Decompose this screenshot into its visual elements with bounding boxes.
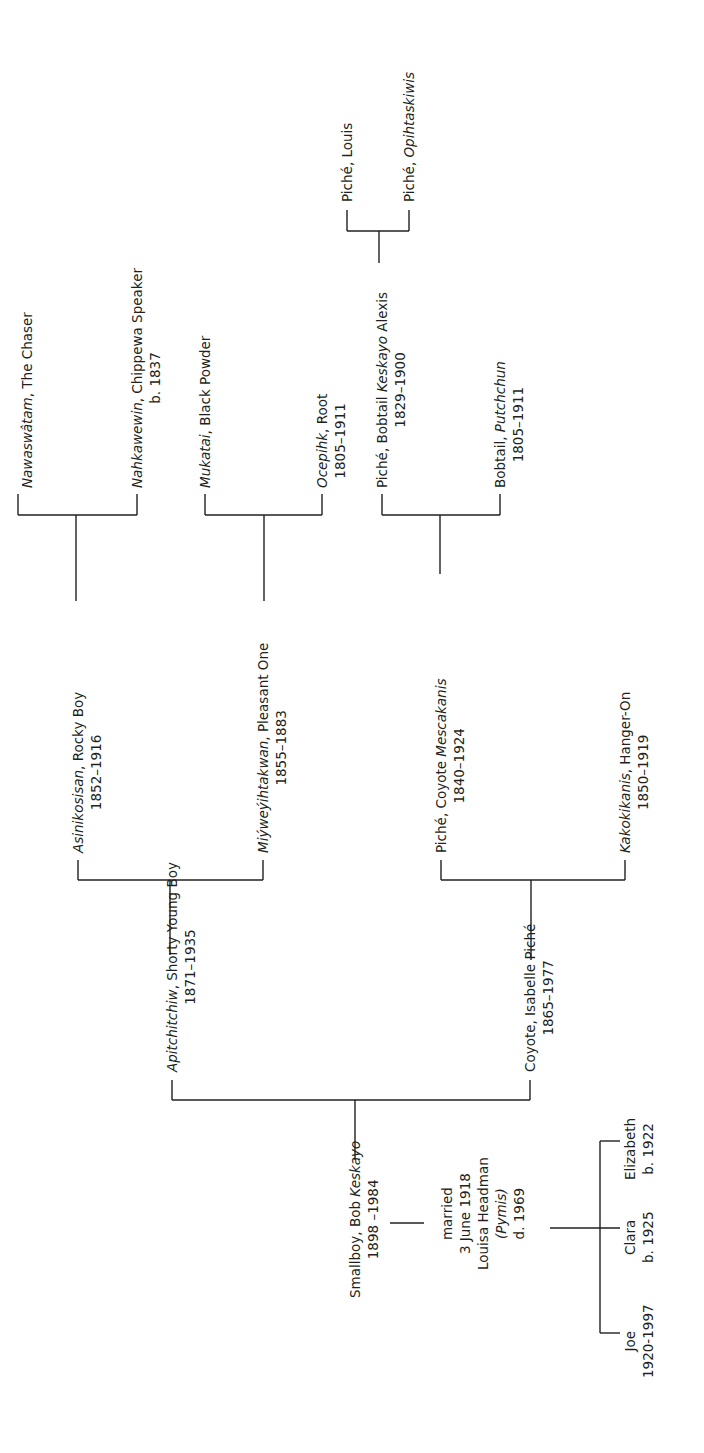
person-dates: 1805–1911 <box>509 361 527 488</box>
person-name-plain: Piché, Bobtail <box>374 392 390 488</box>
person-name-italic: Nahkawewin <box>129 402 145 488</box>
person-name: Joe <box>621 1304 639 1378</box>
person-name-italic: Kakokikanis <box>617 773 633 853</box>
person-joe: Joe 1920-1997 <box>621 1304 657 1378</box>
person-name-italic: Keskayo <box>347 1141 363 1197</box>
person-smallboy-bob: Smallboy, Bob Keskayo 1898 –1984 <box>346 1141 382 1298</box>
marriage-info: married 3 June 1918 Louisa Headman (Pymi… <box>438 1157 528 1270</box>
person-piche-coyote: Piché, Coyote Mescakanis 1840–1924 <box>432 679 468 853</box>
person-name: Coyote, Isabelle Piché <box>521 924 539 1072</box>
person-kakokikanis: Kakokikanis, Hanger-On 1850–1919 <box>616 692 652 853</box>
person-name-plain: Piché, Coyote <box>433 757 449 853</box>
person-nahkawewin: Nahkawewin, Chippewa Speaker b. 1837 <box>128 268 164 488</box>
spouse-alt-name: (Pymis) <box>492 1157 510 1270</box>
person-name-italic: Ocepihk <box>314 433 330 488</box>
person-nawaswatam: Nawaswâtam, The Chaser <box>18 312 36 488</box>
person-dates: 1865–1977 <box>539 924 557 1072</box>
person-name-italic: Opihtaskiwis <box>401 72 417 158</box>
person-dates: 1852–1916 <box>87 692 105 853</box>
person-name: Piché, Louis <box>338 123 356 202</box>
person-name-rest: , Root <box>314 394 330 433</box>
person-name-rest: , Rocky Boy <box>70 692 86 770</box>
person-dates: 1920-1997 <box>639 1304 657 1378</box>
person-name-plain: Piché, <box>401 158 417 202</box>
person-name-italic: Nawaswâtam <box>19 397 35 488</box>
person-name-rest: Alexis <box>374 292 390 336</box>
person-name-italic: Apitchitchiw <box>164 989 180 1072</box>
person-apitchitchiw: Apitchitchiw, Shorty Young Boy 1871–1935 <box>163 862 199 1072</box>
person-dates: 1898 –1984 <box>364 1141 382 1298</box>
person-name-italic: Miýweýihtakwan <box>255 741 271 853</box>
person-piche-bobtail: Piché, Bobtail Keskayo Alexis 1829–1900 <box>373 292 409 488</box>
person-name: Clara <box>621 1211 639 1263</box>
person-coyote-isabelle: Coyote, Isabelle Piché 1865–1977 <box>521 924 557 1072</box>
person-name-rest: , Black Powder <box>197 336 213 435</box>
person-dates: b. 1837 <box>146 268 164 488</box>
person-dates: 1871–1935 <box>181 862 199 1072</box>
person-dates: 1805–1911 <box>331 394 349 488</box>
person-name-italic: Putchchun <box>492 361 508 432</box>
person-dates: 1829–1900 <box>391 292 409 488</box>
person-asinikosisan: Asinikosisan, Rocky Boy 1852–1916 <box>69 692 105 853</box>
person-miyweyihtakwan: Miýweýihtakwan, Pleasant One 1855–1883 <box>254 643 290 853</box>
person-piche-opihtaskiwis: Piché, Opihtaskiwis <box>400 72 418 202</box>
person-name-italic: Asinikosisan <box>70 770 86 853</box>
person-ocepihk: Ocepihk, Root 1805–1911 <box>313 394 349 488</box>
person-name-plain: Bobtail, <box>492 432 508 488</box>
person-name-italic: Mescakanis <box>433 679 449 757</box>
person-piche-louis: Piché, Louis <box>338 123 356 202</box>
person-name-italic: Mukatai <box>197 434 213 488</box>
person-name-rest: , Shorty Young Boy <box>164 862 180 989</box>
person-dates: 1850–1919 <box>634 692 652 853</box>
person-name-rest: , Hanger-On <box>617 692 633 774</box>
person-mukatai: Mukatai, Black Powder <box>196 336 214 488</box>
marriage-label: married <box>438 1157 456 1270</box>
person-name-plain: Smallboy, Bob <box>347 1197 363 1298</box>
person-clara: Clara b. 1925 <box>621 1211 657 1263</box>
person-name-rest: , The Chaser <box>19 312 35 397</box>
person-dates: b. 1922 <box>639 1118 657 1180</box>
marriage-date: 3 June 1918 <box>456 1157 474 1270</box>
person-name-italic: Keskayo <box>374 336 390 392</box>
person-dates: b. 1925 <box>639 1211 657 1263</box>
person-bobtail-putchchun: Bobtail, Putchchun 1805–1911 <box>491 361 527 488</box>
person-name-rest: , Pleasant One <box>255 643 271 741</box>
person-dates: 1855–1883 <box>272 643 290 853</box>
person-elizabeth: Elizabeth b. 1922 <box>621 1118 657 1180</box>
spouse-name: Louisa Headman <box>474 1157 492 1270</box>
person-name: Elizabeth <box>621 1118 639 1180</box>
person-dates: 1840–1924 <box>450 679 468 853</box>
spouse-death: d. 1969 <box>510 1157 528 1270</box>
person-name-rest: , Chippewa Speaker <box>129 268 145 402</box>
